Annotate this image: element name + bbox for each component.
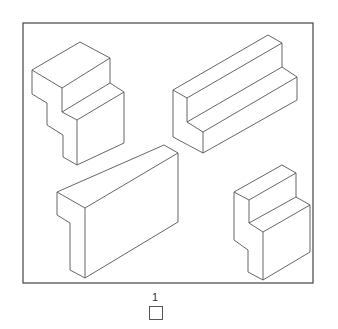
figure-frame (23, 23, 313, 283)
shape-bottom-left (57, 145, 178, 278)
shape-top-right (173, 35, 297, 153)
figure-canvas (0, 0, 338, 329)
answer-box[interactable] (149, 306, 163, 320)
answer-label: 1 (152, 291, 158, 303)
shape-bottom-right (234, 165, 310, 280)
shape-top-left (32, 42, 124, 165)
